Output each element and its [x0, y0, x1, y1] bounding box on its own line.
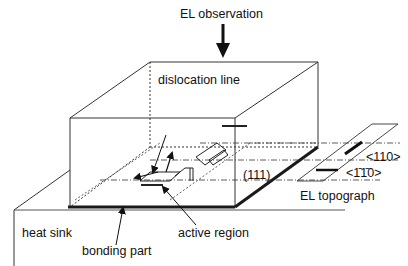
emission-arrows-icon: [135, 153, 172, 178]
active-region: [140, 126, 247, 185]
bonding-part-label: bonding part: [82, 245, 152, 258]
heat-sink-label: heat sink: [22, 227, 72, 240]
direction-1bar10-label: <1̄1̄0>: [346, 167, 381, 180]
observation-arrow-icon: [216, 24, 230, 58]
observation-label: EL observation: [180, 8, 263, 21]
el-observation-diagram: EL observation dislocation line (111) <1…: [0, 0, 408, 266]
dislocation-line-label: dislocation line: [158, 74, 240, 87]
el-topograph-label: EL topograph: [300, 190, 375, 203]
active-region-label: active region: [178, 227, 249, 240]
heat-sink: [14, 170, 345, 266]
plane-111-label: (111): [243, 169, 270, 182]
direction-110-label: <110>: [366, 151, 401, 164]
